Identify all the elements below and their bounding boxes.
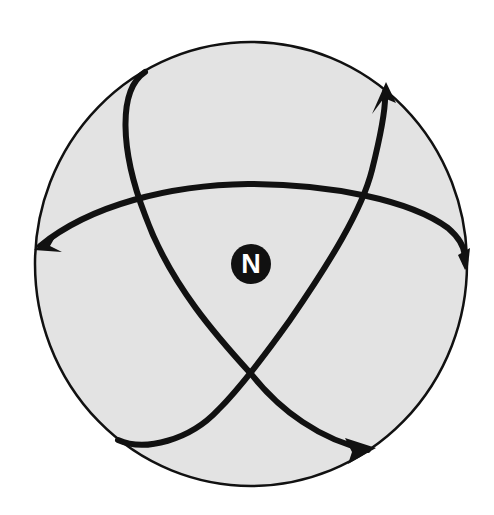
diagram-canvas: N bbox=[0, 0, 494, 515]
north-label: N bbox=[236, 248, 266, 280]
